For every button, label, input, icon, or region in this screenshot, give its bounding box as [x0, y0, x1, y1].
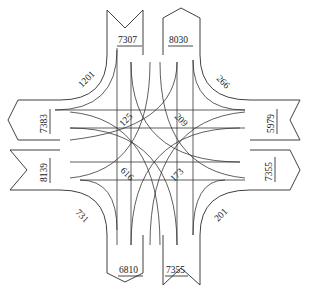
east-inbound-volume: 5979	[266, 114, 276, 133]
left-turn-volume-173: 173	[168, 166, 185, 183]
se-right-turn-volume: 201	[212, 206, 229, 223]
west-outbound-volume: 7383	[39, 114, 49, 133]
north-inbound-volume: 7307	[118, 35, 137, 45]
south-inbound-volume: 7355	[166, 265, 185, 275]
east-outbound-volume: 7355	[264, 162, 274, 181]
intersection-diagram: 7307 8030 6810 7355 7383 8139 5979 7355 …	[0, 0, 310, 290]
nw-right-turn-volume: 1201	[76, 69, 97, 90]
north-left-arm	[107, 10, 143, 55]
west-inbound-volume: 8139	[39, 163, 49, 182]
left-turn-volume-209: 209	[173, 111, 190, 128]
intersection-outline	[8, 8, 300, 285]
left-turn-volume-125: 125	[117, 111, 134, 128]
right-turn-labels: 1201 266 731 201	[74, 69, 232, 225]
south-outbound-volume: 6810	[119, 265, 138, 275]
north-outbound-volume: 8030	[169, 35, 188, 45]
ne-right-turn-volume: 266	[215, 73, 232, 90]
approach-labels: 7307 8030 6810 7355 7383 8139 5979 7355	[39, 35, 277, 276]
sw-right-turn-volume: 731	[74, 207, 91, 224]
intersection-svg: 7307 8030 6810 7355 7383 8139 5979 7355 …	[0, 0, 310, 290]
